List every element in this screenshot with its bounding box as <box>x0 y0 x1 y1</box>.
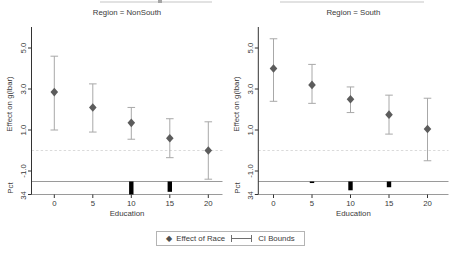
effect-marker <box>205 146 213 155</box>
x-tick-label: 0 <box>271 199 276 208</box>
effect-marker <box>166 134 174 143</box>
legend-label-ci: CI Bounds <box>258 234 294 243</box>
pct-tick-label: 34 <box>246 191 255 200</box>
effect-marker <box>128 119 136 128</box>
hist-bar <box>348 182 352 191</box>
hist-bar <box>129 182 133 195</box>
y-axis-title: Effect on g(lbar) <box>5 76 14 132</box>
pct-axis-title: Pct <box>233 182 242 194</box>
effect-marker <box>308 81 316 90</box>
y-tick-label: 1.0 <box>19 124 28 136</box>
y-tick-label: 3.0 <box>19 83 28 95</box>
y-tick-label: 5.0 <box>19 42 28 54</box>
y-tick-label: -1.0 <box>19 164 28 178</box>
y-tick-label: 3.0 <box>246 83 255 95</box>
pct-axis-title: Pct <box>6 182 15 194</box>
y-tick-label: 1.0 <box>246 124 255 136</box>
x-tick-label: 5 <box>91 199 96 208</box>
x-tick-label: 15 <box>385 199 394 208</box>
x-axis-title: Education <box>336 209 371 218</box>
effect-marker <box>347 95 355 104</box>
x-axis-title: Education <box>110 209 145 218</box>
x-tick-label: 20 <box>204 199 213 208</box>
effects-by-education-chart: Region = NonSouth5.03.01.0-1.0Effect on … <box>0 0 452 261</box>
x-tick-label: 5 <box>310 199 315 208</box>
effect-marker <box>270 64 278 73</box>
y-axis-title: Effect on g(lbar) <box>232 76 241 132</box>
effect-marker <box>385 110 393 119</box>
legend: ◆ Effect of Race CI Bounds <box>156 231 305 246</box>
panel-title: Region = South <box>326 8 380 17</box>
effect-marker <box>89 103 97 112</box>
y-tick-label: -1.0 <box>246 164 255 178</box>
x-tick-label: 10 <box>346 199 355 208</box>
ci-bounds-icon <box>231 235 252 242</box>
diamond-marker-icon: ◆ <box>166 234 172 242</box>
panel-title: Region = NonSouth <box>93 8 161 17</box>
y-tick-label: 5.0 <box>246 42 255 54</box>
pct-tick-label: 34 <box>19 191 28 200</box>
effect-marker <box>51 88 59 97</box>
margins-plot-figure: Region = NonSouth5.03.01.0-1.0Effect on … <box>0 0 452 261</box>
x-tick-label: 0 <box>52 199 57 208</box>
x-tick-label: 15 <box>165 199 174 208</box>
hist-bar <box>168 182 172 192</box>
x-tick-label: 20 <box>423 199 432 208</box>
legend-label-effect: Effect of Race <box>176 234 225 243</box>
hist-bar <box>310 182 314 184</box>
x-tick-label: 10 <box>127 199 136 208</box>
effect-marker <box>424 125 432 134</box>
hist-bar <box>387 182 391 188</box>
